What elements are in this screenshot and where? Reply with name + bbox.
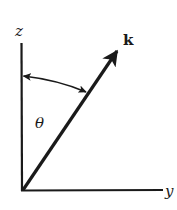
k-vector-label: k: [123, 31, 134, 49]
diagram-canvas: z y k θ: [0, 0, 177, 210]
angle-arc: [24, 76, 87, 92]
y-axis-label: y: [164, 182, 174, 200]
y-axis: [21, 190, 163, 191]
z-axis-label: z: [14, 22, 23, 40]
z-axis: [22, 43, 23, 191]
theta-angle-label: θ: [35, 114, 44, 132]
